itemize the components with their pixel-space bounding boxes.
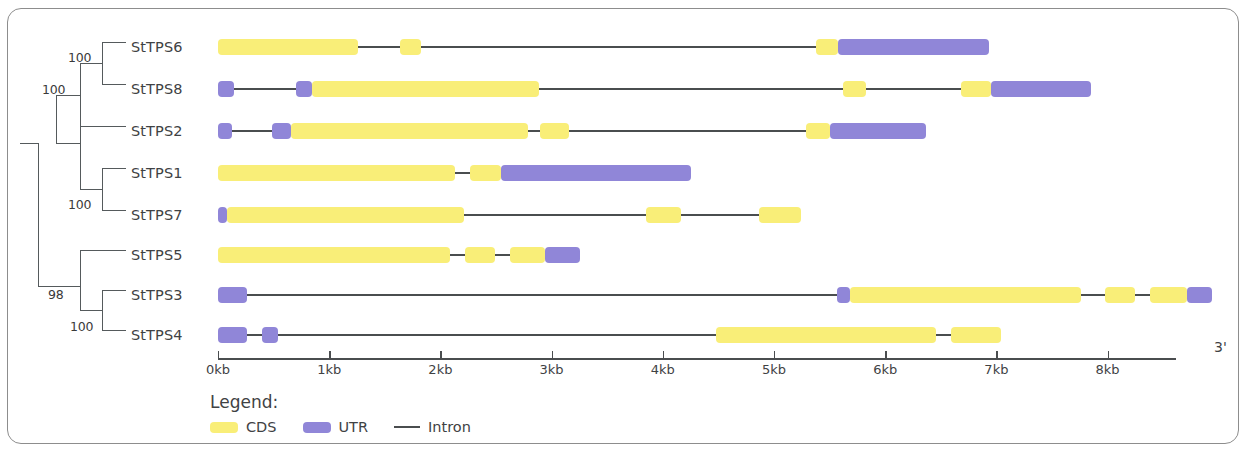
axis-tick: [440, 351, 441, 359]
legend-item-label: CDS: [246, 419, 277, 435]
intron-segment: [495, 254, 510, 256]
cds-exon: [646, 207, 681, 223]
intron-segment: [866, 88, 961, 90]
legend-item-label: Intron: [428, 419, 471, 435]
cds-exon: [759, 207, 801, 223]
legend: Legend: CDSUTRIntron: [210, 392, 471, 435]
cds-exon: [465, 247, 495, 263]
cds-exon: [961, 81, 991, 97]
axis-three-prime-label: 3': [1214, 339, 1227, 355]
cds-exon: [850, 287, 1082, 303]
axis-tick: [996, 351, 997, 359]
tree-root-stem: [20, 143, 39, 144]
utr-exon: [838, 39, 988, 55]
axis-tick-label: 6kb: [873, 362, 897, 377]
axis-tick-label: 2kb: [428, 362, 452, 377]
axis-tick: [885, 351, 886, 359]
cds-exon: [218, 247, 450, 263]
intron-segment: [569, 130, 806, 132]
intron-segment: [1081, 294, 1104, 296]
gene-track-sttps3: [0, 284, 1247, 306]
cds-swatch-icon: [210, 422, 238, 433]
intron-segment: [358, 46, 401, 48]
utr-exon: [1187, 287, 1212, 303]
axis-tick-label: 4kb: [651, 362, 675, 377]
intron-segment: [450, 254, 465, 256]
gene-track-sttps1: [0, 162, 1247, 184]
cds-exon: [1105, 287, 1135, 303]
axis-tick: [663, 351, 664, 359]
cds-exon: [227, 207, 463, 223]
cds-exon: [470, 165, 501, 181]
cds-exon: [218, 39, 358, 55]
intron-segment: [232, 130, 271, 132]
tree-node-d-stem: [56, 143, 81, 144]
gene-track-sttps7: [0, 204, 1247, 226]
cds-exon: [510, 247, 545, 263]
axis-tick-label: 5kb: [762, 362, 786, 377]
intron-segment: [539, 88, 843, 90]
utr-exon: [218, 287, 247, 303]
cds-exon: [218, 165, 455, 181]
legend-item-utr: UTR: [303, 419, 369, 435]
axis-tick: [774, 351, 775, 359]
intron-line-icon: [394, 426, 420, 428]
utr-exon: [545, 247, 580, 263]
utr-exon: [218, 81, 234, 97]
utr-exon: [218, 207, 227, 223]
intron-segment: [247, 334, 262, 336]
cds-exon: [1150, 287, 1187, 303]
legend-items: CDSUTRIntron: [210, 419, 471, 435]
cds-exon: [312, 81, 539, 97]
gene-track-sttps5: [0, 244, 1247, 266]
intron-segment: [234, 88, 296, 90]
utr-swatch-icon: [303, 422, 331, 433]
cds-exon: [843, 81, 866, 97]
intron-segment: [936, 334, 951, 336]
intron-segment: [247, 294, 837, 296]
axis-tick-label: 0kb: [206, 362, 230, 377]
intron-segment: [421, 46, 815, 48]
tree-node-e-stem: [80, 310, 103, 311]
axis-tick-label: 7kb: [984, 362, 1008, 377]
axis-line: [218, 358, 1176, 360]
intron-segment: [528, 130, 540, 132]
axis-tick-label: 3kb: [540, 362, 564, 377]
legend-title: Legend:: [210, 392, 471, 412]
cds-exon: [400, 39, 421, 55]
axis-tick: [552, 351, 553, 359]
utr-exon: [991, 81, 1092, 97]
utr-exon: [830, 123, 927, 139]
cds-exon: [806, 123, 829, 139]
cds-exon: [291, 123, 528, 139]
intron-segment: [278, 334, 716, 336]
legend-item-intron: Intron: [394, 419, 471, 435]
utr-exon: [296, 81, 312, 97]
legend-item-cds: CDS: [210, 419, 277, 435]
gene-track-sttps6: [0, 36, 1247, 58]
gene-structure-figure: 10010010098100 StTPS6StTPS8StTPS2StTPS1S…: [0, 0, 1247, 450]
legend-item-label: UTR: [339, 419, 369, 435]
cds-exon: [540, 123, 569, 139]
intron-segment: [455, 172, 470, 174]
gene-track-sttps2: [0, 120, 1247, 142]
utr-exon: [218, 123, 232, 139]
axis-tick: [218, 351, 219, 359]
utr-exon: [501, 165, 691, 181]
axis-tick: [1108, 351, 1109, 359]
scale-axis: 0kb1kb2kb3kb4kb5kb6kb7kb8kb 3': [0, 340, 1247, 380]
cds-exon: [816, 39, 839, 55]
intron-segment: [464, 214, 646, 216]
axis-tick: [329, 351, 330, 359]
tree-node-c-stem: [80, 189, 103, 190]
utr-exon: [272, 123, 291, 139]
axis-tick-label: 8kb: [1096, 362, 1120, 377]
axis-tick-label: 1kb: [317, 362, 341, 377]
intron-segment: [1135, 294, 1150, 296]
utr-exon: [837, 287, 849, 303]
intron-segment: [681, 214, 759, 216]
gene-track-sttps8: [0, 78, 1247, 100]
